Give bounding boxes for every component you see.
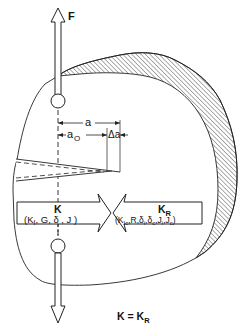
- dimension-a0: a O: [58, 128, 107, 143]
- upward-force-arrow: F: [51, 8, 75, 108]
- initial-crack-label: a: [67, 128, 74, 140]
- downward-force-arrow: [51, 224, 65, 323]
- hatched-rim: [58, 53, 237, 258]
- crack-extension-label: Δa: [108, 129, 121, 140]
- fracture-mechanics-diagram: F a a O Δa K (KI, G, δ , J ): [0, 0, 249, 336]
- resistance-box: KR (KIc,R,δi,δc,Ji,Jc): [113, 194, 202, 232]
- initial-crack-subscript: O: [74, 134, 80, 143]
- dimension-delta-a: Δa: [107, 120, 128, 172]
- driving-force-params: (KI, G, δ , J ): [24, 214, 77, 226]
- crack-length-label: a: [85, 116, 92, 128]
- dimension-a: a: [58, 116, 120, 128]
- crack-notch: [16, 159, 120, 181]
- equilibrium-equation: K = KR: [117, 310, 150, 325]
- driving-force-box: K (KI, G, δ , J ): [17, 194, 111, 232]
- force-label: F: [68, 10, 75, 22]
